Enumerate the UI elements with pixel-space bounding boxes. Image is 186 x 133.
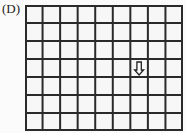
- grid-board: [25, 5, 183, 131]
- option-label: (D): [2, 1, 20, 17]
- grid-lines: [25, 5, 183, 131]
